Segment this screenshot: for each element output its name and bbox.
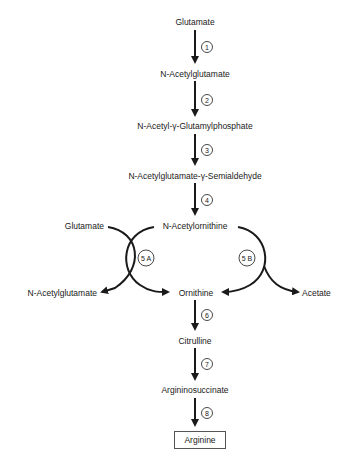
step-5a-label: 5 A <box>141 255 151 262</box>
node-argininosuccinate: Argininosuccinate <box>161 386 228 395</box>
node-ornithine: Ornithine <box>179 289 214 298</box>
node-n-acetylglutamate: N-Acetylglutamate <box>160 70 229 79</box>
node-arginine: Arginine <box>184 435 215 445</box>
step-2-label: 2 <box>205 97 209 104</box>
node-citrulline: Citrulline <box>178 337 211 346</box>
step-6-label: 6 <box>205 312 209 319</box>
node-n-acetylglutamate-side: N-Acetylglutamate <box>28 289 97 298</box>
step-1-label: 1 <box>205 44 209 51</box>
node-glutamate: Glutamate <box>175 18 214 27</box>
step-4-label: 4 <box>205 197 209 204</box>
node-n-acetylornithine: N-Acetylornithine <box>163 222 228 231</box>
node-n-acetyl-glutamylphosphate: N-Acetyl-γ-Glutamylphosphate <box>137 122 252 131</box>
node-glutamate-side: Glutamate <box>65 222 104 231</box>
step-7-label: 7 <box>205 361 209 368</box>
step-5b-label: 5 B <box>242 255 253 262</box>
node-n-acetylglutamate-semialdehyde: N-Acetylglutamate-γ-Semialdehyde <box>128 172 261 181</box>
step-8-label: 8 <box>205 410 209 417</box>
node-arginine-box: Arginine <box>174 431 226 449</box>
step-3-label: 3 <box>205 147 209 154</box>
node-acetate: Acetate <box>302 289 331 298</box>
